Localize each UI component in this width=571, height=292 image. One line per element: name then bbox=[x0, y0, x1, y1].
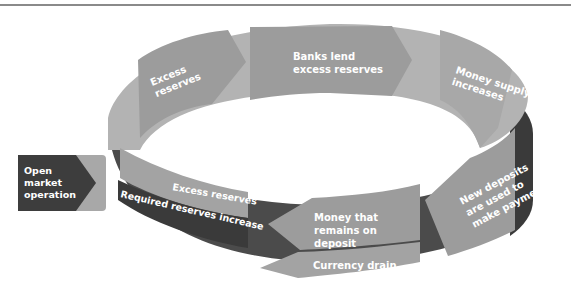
arrow-banks-lend bbox=[250, 26, 412, 100]
money-cycle-diagram: Open market operation Excess reserves Ba… bbox=[0, 0, 571, 292]
label-currency-drain: Currency drain bbox=[313, 260, 397, 271]
